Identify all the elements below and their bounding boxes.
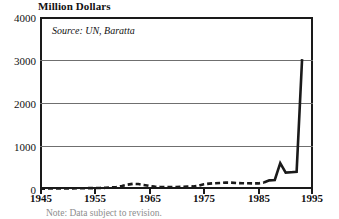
y-tick-label-3000: 3000 bbox=[2, 56, 36, 67]
y-tick-label-2000: 2000 bbox=[2, 99, 36, 110]
x-tick-label-1995: 1995 bbox=[301, 192, 323, 204]
series-path-dashed bbox=[40, 183, 264, 189]
x-axis: 1945 1955 1965 1975 1985 1995 bbox=[0, 192, 339, 208]
x-tick-label-1975: 1975 bbox=[193, 192, 215, 204]
x-tick-label-1965: 1965 bbox=[139, 192, 161, 204]
chart-figure: Million Dollars 4000 3000 2000 1000 0 So… bbox=[0, 0, 339, 219]
chart-title: Million Dollars bbox=[38, 0, 111, 13]
series-path-solid bbox=[264, 59, 302, 182]
data-series-line bbox=[40, 17, 313, 189]
y-tick-label-4000: 4000 bbox=[2, 13, 36, 24]
y-axis: 4000 3000 2000 1000 0 bbox=[0, 17, 36, 189]
plot-area: Source: UN, Baratta bbox=[40, 17, 313, 189]
x-tick-label-1985: 1985 bbox=[248, 192, 270, 204]
chart-footnote: Note: Data subject to revision. bbox=[46, 208, 162, 219]
x-tick-label-1955: 1955 bbox=[84, 192, 106, 204]
y-tick-label-1000: 1000 bbox=[2, 142, 36, 153]
x-tick-label-1945: 1945 bbox=[30, 192, 52, 204]
